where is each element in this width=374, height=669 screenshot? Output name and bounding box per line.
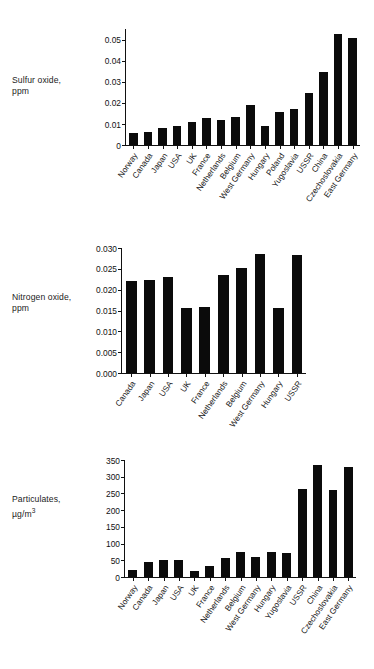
- bar: [251, 557, 260, 577]
- x-tick-mark: [131, 373, 132, 377]
- x-tick-mark: [210, 577, 211, 581]
- x-tick-labels-nitrogen: CanadaJapanUSAUKFranceNetherlandsBelgium…: [122, 380, 306, 390]
- bar-slot: [196, 248, 214, 373]
- x-tick-label-slot: Netherlands: [214, 152, 229, 162]
- x-tick-label-slot: France: [202, 584, 217, 594]
- bar-slot: [251, 248, 269, 373]
- axis-label-line2: µg/m3: [12, 505, 98, 520]
- y-tick-mark: [122, 145, 126, 146]
- x-tick-label-slot: Japan: [156, 584, 171, 594]
- x-tick-mark: [280, 145, 281, 149]
- bar: [199, 307, 210, 373]
- bar-slot: [187, 460, 202, 577]
- x-tick-mark: [241, 577, 242, 581]
- y-tick-label: 0.005: [96, 349, 121, 357]
- x-tick-mark: [179, 577, 180, 581]
- bar-slot: [159, 248, 177, 373]
- bar-slot: [125, 460, 140, 577]
- y-tick-label: 0: [115, 574, 124, 582]
- x-tick-label-slot: West Germany: [251, 380, 269, 390]
- x-tick-label: USSR: [284, 380, 304, 403]
- bar: [126, 281, 137, 373]
- x-tick-label-slot: Norway: [126, 152, 141, 162]
- x-tick-mark: [333, 577, 334, 581]
- bar: [319, 72, 327, 145]
- x-tick-label-slot: Yugoslavia: [287, 152, 302, 162]
- bar: [348, 38, 356, 145]
- bar-slot: [232, 248, 250, 373]
- y-tick-mark: [118, 373, 122, 374]
- bar: [129, 133, 137, 145]
- bar: [298, 489, 307, 577]
- x-tick-label: USA: [168, 152, 184, 171]
- y-tick-label: 150: [106, 524, 124, 532]
- bar: [188, 122, 196, 145]
- x-tick-mark: [242, 373, 243, 377]
- x-tick-labels-particulates: NorwayCanadaJapanUSAUKFranceNetherlandsB…: [125, 584, 356, 594]
- y-tick-label: 0.000: [96, 370, 121, 378]
- bar: [236, 268, 247, 373]
- x-tick-mark: [250, 145, 251, 149]
- x-tick-label: USA: [169, 584, 185, 603]
- x-tick-label: Japan: [137, 380, 157, 403]
- bar-slot: [199, 29, 214, 145]
- x-tick-mark: [338, 145, 339, 149]
- bar: [273, 308, 284, 373]
- x-tick-mark: [297, 373, 298, 377]
- x-tick-label-slot: UK: [187, 584, 202, 594]
- chart-sulfur-oxide: Sulfur oxide, ppm 00.010.020.030.040.05 …: [0, 0, 374, 230]
- bar: [236, 552, 245, 577]
- bar: [221, 558, 230, 577]
- y-tick-label: 0: [116, 142, 125, 150]
- bar: [344, 467, 353, 577]
- bar-slot: [287, 29, 302, 145]
- x-tick-label-slot: USSR: [302, 152, 317, 162]
- bar-slot: [202, 460, 217, 577]
- bar-slot: [288, 248, 306, 373]
- x-tick-mark: [186, 373, 187, 377]
- x-tick-mark: [194, 577, 195, 581]
- y-tick-label: 0.05: [105, 36, 125, 44]
- bar: [144, 280, 155, 373]
- x-tick-mark: [256, 577, 257, 581]
- bar: [261, 126, 269, 145]
- x-tick-label-slot: China: [316, 152, 331, 162]
- x-tick-label-slot: China: [310, 584, 325, 594]
- x-tick-label-slot: Hungary: [264, 584, 279, 594]
- axis-label-sulfur-oxide: Sulfur oxide, ppm: [12, 75, 98, 97]
- bar-slot: [141, 29, 156, 145]
- bar: [313, 465, 322, 577]
- y-tick-label: 0.03: [105, 79, 125, 87]
- bar-slot: [122, 248, 140, 373]
- bar: [163, 277, 174, 373]
- bar-group-particulates: [125, 460, 356, 577]
- bar-slot: [345, 29, 360, 145]
- bar-slot: [302, 29, 317, 145]
- y-tick-label: 250: [106, 490, 124, 498]
- bar-slot: [155, 29, 170, 145]
- x-tick-mark: [271, 577, 272, 581]
- bar-slot: [316, 29, 331, 145]
- bar-slot: [171, 460, 186, 577]
- x-tick-label-slot: Canada: [141, 152, 156, 162]
- axis-label-line1: Sulfur oxide,: [12, 75, 61, 85]
- x-tick-label-slot: Belgium: [228, 152, 243, 162]
- x-tick-mark: [221, 145, 222, 149]
- bar: [218, 275, 229, 373]
- bar-slot: [156, 460, 171, 577]
- x-tick-label-slot: Hungary: [258, 152, 273, 162]
- x-tick-label-slot: Yugoslavia: [279, 584, 294, 594]
- bar: [144, 132, 152, 145]
- axis-label-line2: ppm: [12, 303, 98, 314]
- bar: [275, 112, 283, 145]
- x-tick-mark: [206, 145, 207, 149]
- x-tick-label-slot: Japan: [140, 380, 158, 390]
- y-tick-label: 0.030: [96, 245, 121, 253]
- y-tick-label: 50: [111, 557, 124, 565]
- bar: [282, 553, 291, 577]
- y-tick-label: 300: [106, 474, 124, 482]
- x-tick-label-slot: Norway: [125, 584, 140, 594]
- bar-slot: [310, 460, 325, 577]
- x-tick-label: USA: [158, 380, 174, 399]
- x-tick-label-slot: East Germany: [341, 584, 356, 594]
